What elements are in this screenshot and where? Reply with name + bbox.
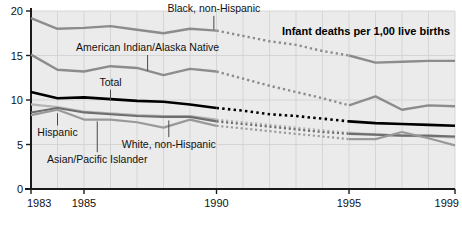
- series-label-white-non-hispanic: White, non-Hispanic: [122, 138, 216, 150]
- series-label-hispanic: Hispanic: [37, 126, 77, 138]
- y-tick-label: 0: [17, 183, 23, 195]
- x-tick-label: 1985: [72, 197, 96, 209]
- x-tick-label: 1995: [337, 197, 361, 209]
- series-label-asian-pacific-islander: Asian/Pacific Islander: [47, 153, 148, 165]
- chart-figure: 05101520 19831985199019951999 Black, non…: [0, 0, 462, 229]
- y-tick-label: 5: [17, 139, 23, 151]
- y-tick-label: 10: [11, 94, 23, 106]
- x-tick-label: 1990: [204, 197, 228, 209]
- chart-title: Infant deaths per 1,00 live births: [282, 25, 450, 37]
- series-label-american-indian-alaska-native: American Indian/Alaska Native: [76, 41, 219, 53]
- x-tick-label: 1999: [435, 197, 459, 209]
- series-label-black-non-hispanic: Black, non-Hispanic: [167, 2, 260, 14]
- y-tick-label: 20: [11, 5, 23, 17]
- infant-mortality-line-chart: 05101520 19831985199019951999 Black, non…: [0, 0, 462, 229]
- series-label-total: Total: [99, 76, 121, 88]
- x-tick-label: 1983: [27, 197, 51, 209]
- y-tick-label: 15: [11, 50, 23, 62]
- chart-title-text: Infant deaths per 1,00 live births: [282, 25, 450, 37]
